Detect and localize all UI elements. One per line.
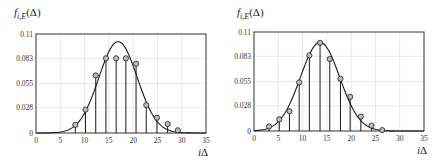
x-tick-label: 20 bbox=[129, 136, 137, 145]
x-tick-label: 10 bbox=[81, 136, 89, 145]
data-point-marker bbox=[93, 73, 98, 78]
data-point-marker bbox=[154, 115, 159, 120]
y-tick-label: 0.055 bbox=[234, 77, 251, 86]
y-tick-label: 0.055 bbox=[16, 79, 33, 88]
x-tick-label: 35 bbox=[420, 134, 428, 143]
y-tick-label: 0.11 bbox=[238, 28, 251, 37]
plot-area: 0510152025303500.0280.0550.0830.11 bbox=[0, 0, 223, 165]
y-tick-label: 0.028 bbox=[16, 103, 33, 112]
data-point-marker bbox=[175, 128, 180, 133]
data-point-marker bbox=[144, 103, 149, 108]
x-tick-label: 5 bbox=[58, 136, 62, 145]
y-tick-label: 0.083 bbox=[234, 52, 251, 61]
data-point-marker bbox=[73, 122, 78, 127]
y-tick-label: 0.083 bbox=[16, 54, 33, 63]
data-point-marker bbox=[358, 114, 363, 119]
grid bbox=[254, 32, 424, 131]
x-tick-label: 10 bbox=[299, 134, 307, 143]
x-tick-label: 15 bbox=[323, 134, 331, 143]
x-tick-label: 0 bbox=[252, 134, 256, 143]
data-point-marker bbox=[287, 109, 292, 114]
x-tick-label: 30 bbox=[178, 136, 186, 145]
data-point-marker bbox=[266, 124, 271, 129]
data-point-marker bbox=[369, 123, 374, 128]
x-tick-label: 25 bbox=[372, 134, 380, 143]
left-chart: fi,E(Δ) iΔ 0510152025303500.0280.0550.08… bbox=[0, 0, 223, 165]
y-tick-label: 0.028 bbox=[234, 101, 251, 110]
data-point-marker bbox=[133, 61, 138, 66]
data-point-marker bbox=[123, 56, 128, 61]
data-point-marker bbox=[297, 80, 302, 85]
data-point-marker bbox=[114, 56, 119, 61]
data-point-marker bbox=[317, 40, 322, 45]
data-point-marker bbox=[307, 53, 312, 58]
x-tick-label: 25 bbox=[154, 136, 162, 145]
fitted-curve bbox=[36, 42, 206, 133]
plot-area: 0510152025303500.0280.0550.0830.11 bbox=[223, 0, 446, 165]
right-chart: fi,E(Δ) iΔ 0510152025303500.0280.0550.08… bbox=[223, 0, 446, 165]
y-tick-label: 0.11 bbox=[20, 30, 33, 39]
x-tick-label: 30 bbox=[396, 134, 404, 143]
x-tick-label: 15 bbox=[105, 136, 113, 145]
data-point-marker bbox=[327, 56, 332, 61]
data-point-marker bbox=[380, 128, 385, 133]
grid bbox=[36, 34, 206, 133]
data-point-marker bbox=[103, 56, 108, 61]
data-point-marker bbox=[338, 76, 343, 81]
data-point-marker bbox=[83, 107, 88, 112]
data-point-marker bbox=[348, 94, 353, 99]
x-tick-label: 0 bbox=[34, 136, 38, 145]
x-tick-label: 5 bbox=[276, 134, 280, 143]
x-tick-label: 20 bbox=[347, 134, 355, 143]
data-point-marker bbox=[277, 117, 282, 122]
y-tick-label: 0 bbox=[29, 129, 33, 138]
data-point-marker bbox=[165, 121, 170, 126]
x-tick-label: 35 bbox=[202, 136, 210, 145]
y-tick-label: 0 bbox=[247, 127, 251, 136]
